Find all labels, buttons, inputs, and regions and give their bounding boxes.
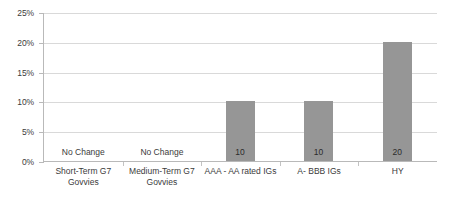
x-label-hy: HY — [368, 166, 428, 177]
y-tick-label-5: 5% — [22, 128, 34, 137]
bar-a-bbb-igs[interactable]: 10 — [304, 101, 333, 161]
y-tick-label-15: 15% — [17, 68, 34, 77]
x-label-line-2: Govvies — [68, 177, 99, 187]
gridline-25 — [44, 13, 437, 14]
x-label-line-2: Govvies — [147, 177, 178, 187]
gridline-15 — [44, 73, 437, 74]
bar-value-hy: 20 — [383, 148, 412, 157]
y-tick-mark-0 — [39, 162, 44, 163]
plot-area: No Change No Change 10 10 20 — [44, 13, 437, 162]
bar-value-a-bbb-igs: 10 — [304, 148, 333, 157]
y-tick-label-10: 10% — [17, 98, 34, 107]
y-tick-label-0: 0% — [22, 158, 34, 167]
no-change-label-medium-term-g7-govvies: No Change — [140, 148, 183, 157]
bar-aaa-aa-rated-igs[interactable]: 10 — [226, 101, 255, 161]
bar-chart: 25% 20% 15% 10% 5% 0% No Change No Chang… — [0, 0, 450, 207]
x-axis-labels: Short-Term G7Govvies Medium-Term G7Govvi… — [44, 166, 437, 206]
bar-value-aaa-aa-rated-igs: 10 — [226, 148, 255, 157]
x-label-line-1: Short-Term G7 — [55, 166, 111, 176]
y-tick-label-25: 25% — [17, 9, 34, 18]
gridline-20 — [44, 43, 437, 44]
x-axis-line — [44, 161, 437, 162]
y-tick-label-20: 20% — [17, 39, 34, 48]
bar-hy[interactable]: 20 — [383, 42, 412, 161]
no-change-label-short-term-g7-govvies: No Change — [62, 148, 105, 157]
x-label-a-bbb-igs: A- BBB IGs — [269, 166, 369, 177]
